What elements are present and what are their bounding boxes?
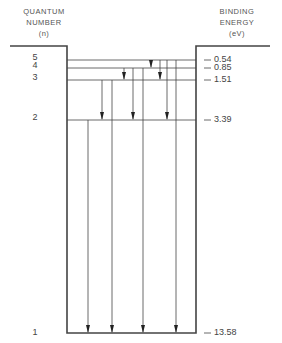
binding-energy-label: 1.51: [214, 74, 232, 84]
quantum-number-label: 3: [29, 72, 41, 82]
arrowhead-icon: [141, 325, 145, 333]
arrowhead-icon: [86, 325, 90, 333]
well-outline: [10, 46, 270, 333]
quantum-number-label: 4: [29, 60, 41, 70]
binding-energy-label: 13.58: [214, 327, 237, 337]
arrowhead-icon: [100, 112, 104, 120]
arrowhead-icon: [158, 72, 162, 80]
arrowhead-icon: [110, 325, 114, 333]
quantum-number-label: 2: [29, 112, 41, 122]
arrowhead-icon: [122, 72, 126, 80]
arrowhead-icon: [174, 325, 178, 333]
binding-energy-label: 3.39: [214, 114, 232, 124]
energy-level-diagram: [0, 0, 282, 343]
arrowhead-icon: [131, 112, 135, 120]
quantum-number-label: 1: [29, 327, 41, 337]
arrowhead-icon: [149, 60, 153, 68]
arrowhead-icon: [165, 112, 169, 120]
binding-energy-label: 0.85: [214, 62, 232, 72]
